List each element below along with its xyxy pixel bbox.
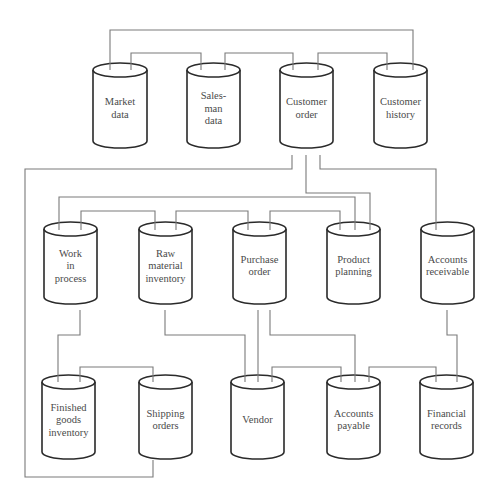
cylinder-top (187, 63, 240, 77)
data-store-salesman-data: Sales-mandata (187, 63, 240, 148)
data-store-label: order (295, 109, 318, 120)
data-store-purchase-order: Purchaseorder (233, 222, 286, 304)
data-store-label: inventory (145, 273, 186, 284)
data-store-finished-goods-inventory: Finishedgoodsinventory (42, 375, 95, 459)
data-stores: MarketdataSales-mandataCustomerorderCust… (42, 63, 474, 459)
data-store-customer-order: Customerorder (280, 63, 333, 148)
data-store-financial-records: Financialrecords (420, 375, 473, 459)
data-store-label: Accounts (428, 254, 468, 265)
data-store-label: planning (335, 266, 372, 277)
data-store-work-in-process: Workinprocess (44, 222, 97, 304)
cylinder-top (42, 375, 95, 389)
cylinder-top (44, 222, 97, 236)
data-store-customer-history: Customerhistory (374, 63, 427, 148)
data-store-label: Product (337, 254, 370, 265)
data-store-label: data (111, 109, 129, 120)
data-store-label: orders (152, 420, 178, 431)
data-store-raw-material-inventory: Rawmaterialinventory (139, 222, 192, 304)
data-store-label: Sales- (201, 90, 227, 101)
connector-work-in-process-to-finished-goods-inventory (58, 310, 80, 382)
connector-customer-order-to-product-planning (306, 155, 370, 230)
data-store-label: man (204, 103, 223, 114)
data-store-label: goods (56, 414, 81, 425)
data-store-vendor: Vendor (231, 375, 284, 459)
cylinder-top (139, 375, 192, 389)
data-store-label: Shipping (147, 408, 186, 419)
data-store-label: payable (337, 420, 370, 431)
connector-raw-material-inventory-to-vendor (165, 310, 245, 382)
data-store-label: Purchase (241, 254, 279, 265)
connector-purchase-order-to-accounts-payable (270, 310, 355, 382)
data-store-market-data: Marketdata (93, 63, 147, 148)
cylinder-top (233, 222, 286, 236)
connector-market-data-to-customer-history (110, 30, 413, 70)
cylinder-top (139, 222, 192, 236)
data-store-label: Accounts (334, 408, 374, 419)
data-store-label: data (205, 115, 223, 126)
data-store-label: order (248, 266, 271, 277)
cylinder-top (280, 63, 333, 77)
data-store-label: records (431, 420, 462, 431)
data-store-product-planning: Productplanning (327, 222, 380, 304)
data-store-label: Raw (156, 248, 176, 259)
cylinder-top (374, 63, 427, 77)
cylinder-top (420, 375, 473, 389)
data-store-label: inventory (48, 427, 89, 438)
cylinder-top (421, 222, 474, 236)
data-store-label: in (66, 260, 75, 271)
data-store-label: Vendor (242, 414, 273, 425)
data-store-label: Financial (427, 408, 466, 419)
connector-accounts-receivable-to-financial-records (447, 310, 457, 382)
data-store-shipping-orders: Shippingorders (139, 375, 192, 459)
data-store-label: Work (59, 248, 83, 259)
data-store-accounts-payable: Accountspayable (327, 375, 380, 459)
data-store-label: Market (105, 96, 135, 107)
data-store-diagram: MarketdataSales-mandataCustomerorderCust… (0, 0, 495, 495)
cylinder-top (327, 375, 380, 389)
cylinder-top (327, 222, 380, 236)
data-store-accounts-receivable: Accountsreceivable (421, 222, 474, 304)
data-store-label: history (386, 109, 416, 120)
data-store-label: Finished (50, 402, 87, 413)
data-store-label: process (55, 273, 87, 284)
data-store-label: material (148, 260, 182, 271)
data-store-label: Customer (380, 96, 421, 107)
data-store-label: Customer (286, 96, 327, 107)
connector-work-in-process-to-product-planning (59, 197, 355, 230)
data-store-label: receivable (426, 266, 469, 277)
cylinder-top (93, 63, 147, 77)
